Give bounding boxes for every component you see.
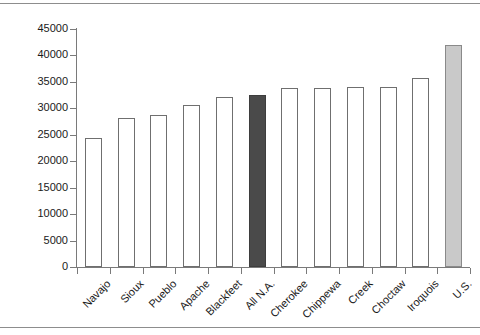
y-axis-tick-label: 5000 [0, 235, 68, 246]
x-axis-tick [241, 268, 242, 274]
x-axis-label-navajo: Navajo [81, 278, 113, 310]
x-axis-tick [339, 268, 340, 274]
x-axis-tick [470, 268, 471, 274]
x-axis-tick [372, 268, 373, 274]
x-axis-tick [175, 268, 176, 274]
bar-iroquois [412, 78, 429, 267]
y-axis-tick-label: 30000 [0, 102, 68, 113]
y-axis-tick-label: 40000 [0, 49, 68, 60]
x-axis-tick [143, 268, 144, 274]
y-axis-tick-label-text: 20000 [6, 155, 68, 166]
bar-chippewa [314, 88, 331, 267]
y-axis-tick-label-text: 15000 [6, 182, 68, 193]
x-axis-tick [405, 268, 406, 274]
bar-chart: 0500010000150002000025000300003500040000… [0, 0, 480, 335]
y-axis-tick-label-text: 35000 [6, 76, 68, 87]
y-axis-tick-label-text: 5000 [6, 235, 68, 246]
x-axis-label-creek: Creek [347, 278, 376, 307]
y-axis-tick-label-text: 0 [6, 261, 68, 272]
x-axis-label-choctaw: Choctaw [370, 278, 408, 316]
y-axis-tick-label: 0 [0, 261, 68, 272]
x-axis-label-sioux: Sioux [119, 278, 146, 305]
bar-choctaw [380, 87, 397, 267]
bar-navajo [85, 138, 102, 267]
bar-sioux [118, 118, 135, 267]
y-axis-tick-label-text: 45000 [6, 23, 68, 34]
bar-all-n-a [249, 95, 266, 267]
y-axis-tick-label-text: 25000 [6, 129, 68, 140]
x-axis-tick [274, 268, 275, 274]
bar-apache [183, 105, 200, 267]
x-axis-tick [208, 268, 209, 274]
x-axis-tick [77, 268, 78, 274]
y-axis-tick-label: 35000 [0, 76, 68, 87]
x-axis-label-u-s: U.S. [450, 278, 473, 301]
x-axis-tick [306, 268, 307, 274]
x-axis-tick [110, 268, 111, 274]
x-axis-label-pueblo: Pueblo [147, 278, 179, 310]
bar-blackfeet [216, 97, 233, 267]
y-axis-tick-label-text: 30000 [6, 102, 68, 113]
x-axis-line [76, 267, 470, 268]
y-axis-tick-label-text: 40000 [6, 49, 68, 60]
y-axis-tick-label: 10000 [0, 208, 68, 219]
y-axis-tick-label: 25000 [0, 129, 68, 140]
x-axis-tick [437, 268, 438, 274]
bar-creek [347, 87, 364, 267]
y-axis-tick-label-text: 10000 [6, 208, 68, 219]
y-axis-tick-label: 20000 [0, 155, 68, 166]
y-axis-tick-label: 45000 [0, 23, 68, 34]
bar-cherokee [281, 88, 298, 267]
bar-pueblo [150, 115, 167, 267]
page-canvas: 0500010000150002000025000300003500040000… [0, 0, 480, 335]
bar-u-s [445, 45, 462, 267]
plot-area [77, 29, 470, 267]
y-axis-tick-label: 15000 [0, 182, 68, 193]
x-axis-label-iroquois: Iroquois [405, 278, 440, 313]
